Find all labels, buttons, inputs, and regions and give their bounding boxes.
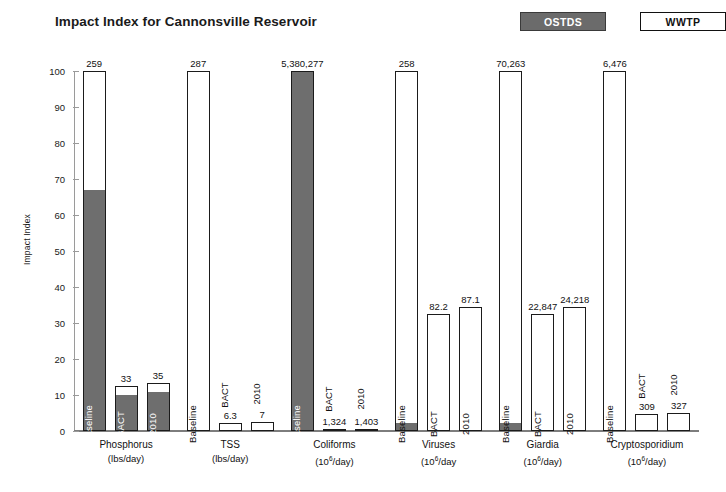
y-tick bbox=[73, 215, 79, 216]
bar-value-label: 6.3 bbox=[224, 410, 237, 421]
category-unit: (lbs/day) bbox=[212, 452, 248, 466]
bar-coliforms-2010: 1,403 bbox=[355, 429, 378, 431]
bar-scenario-label: 2010 bbox=[668, 374, 679, 395]
bar-tss-2010: 7 bbox=[251, 422, 274, 431]
category-unit: (106/day) bbox=[313, 452, 355, 469]
y-tick-label: 40 bbox=[54, 282, 65, 293]
bar-scenario-label: 2010 bbox=[251, 384, 262, 405]
legend-swatch-wwtp: WWTP bbox=[640, 12, 726, 31]
category-unit: (lbs/day) bbox=[99, 452, 152, 466]
legend-item-wwtp: WWTP bbox=[640, 12, 726, 31]
y-tick-label: 20 bbox=[54, 354, 65, 365]
bar-segment-ostds bbox=[500, 423, 521, 430]
bar-segment-wwtp bbox=[396, 72, 417, 423]
y-axis-label: Impact Index bbox=[22, 214, 32, 265]
y-tick-label: 90 bbox=[54, 102, 65, 113]
bar-segment-ostds bbox=[292, 72, 313, 430]
bar-value-label: 87.1 bbox=[461, 294, 480, 305]
bar-segment-wwtp bbox=[84, 72, 105, 190]
bar-value-label: 70,263 bbox=[496, 58, 525, 69]
bar-segment-ostds bbox=[116, 395, 137, 430]
bar-segment-wwtp bbox=[564, 308, 585, 430]
y-tick bbox=[73, 179, 79, 180]
legend-swatch-ostds: OSTDS bbox=[520, 12, 606, 31]
bar-value-label: 5,380,277 bbox=[281, 58, 323, 69]
bar-segment-ostds bbox=[148, 392, 169, 430]
y-tick bbox=[73, 395, 79, 396]
x-axis-category-label: Phosphorus(lbs/day) bbox=[99, 438, 152, 466]
legend-item-ostds: OSTDS bbox=[520, 12, 606, 31]
bar-segment-wwtp bbox=[668, 414, 689, 430]
bar-value-label: 33 bbox=[121, 373, 132, 384]
x-axis-category-label: Viruses(106/day bbox=[421, 438, 456, 469]
bar-cryptosporidium-baseline: 6,476Baseline bbox=[603, 71, 626, 431]
chart-legend: OSTDS WWTP bbox=[520, 12, 726, 31]
category-name: Viruses bbox=[421, 438, 456, 452]
bar-value-label: 259 bbox=[86, 58, 102, 69]
bar-viruses-2010: 87.12010 bbox=[459, 307, 482, 431]
bar-segment-wwtp bbox=[532, 315, 553, 430]
x-axis-category-label: TSS(lbs/day) bbox=[212, 438, 248, 466]
bar-scenario-label: BACT bbox=[636, 373, 647, 398]
category-unit: (106/day) bbox=[524, 452, 562, 469]
y-tick bbox=[73, 143, 79, 144]
category-name: Giardia bbox=[524, 438, 562, 452]
y-tick-label: 80 bbox=[54, 138, 65, 149]
plot-area: 0102030405060708090100259Baseline33BACT3… bbox=[74, 71, 699, 431]
bar-segment-wwtp bbox=[148, 384, 169, 392]
bar-segment-wwtp bbox=[252, 423, 273, 430]
y-tick-label: 60 bbox=[54, 210, 65, 221]
x-axis-category-label: Giardia(106/day) bbox=[524, 438, 562, 469]
y-tick-label: 50 bbox=[54, 246, 65, 257]
y-tick bbox=[73, 323, 79, 324]
bar-coliforms-baseline: 5,380,277Baseline bbox=[291, 71, 314, 431]
bar-scenario-label: 2010 bbox=[355, 389, 366, 410]
x-axis-category-label: Cryptosporidium(106/day) bbox=[611, 438, 684, 469]
bar-phosphorus-bact: 33BACT bbox=[115, 386, 138, 431]
y-tick-label: 100 bbox=[49, 66, 65, 77]
category-unit: (106/day bbox=[421, 452, 456, 469]
bar-giardia-2010: 24,2182010 bbox=[563, 307, 586, 431]
bar-phosphorus-2010: 352010 bbox=[147, 383, 170, 431]
bar-segment-wwtp bbox=[460, 308, 481, 430]
bar-giardia-baseline: 70,263Baseline bbox=[499, 71, 522, 431]
bar-giardia-bact: 22,847BACT bbox=[531, 314, 554, 431]
bar-value-label: 7 bbox=[260, 409, 265, 420]
bar-cryptosporidium-bact: 309 bbox=[635, 414, 658, 431]
bar-scenario-label: BACT bbox=[323, 387, 334, 412]
page-title: Impact Index for Cannonsville Reservoir bbox=[55, 14, 317, 29]
category-name: Phosphorus bbox=[99, 438, 152, 452]
bar-segment-wwtp bbox=[604, 72, 625, 430]
bar-value-label: 287 bbox=[190, 58, 206, 69]
y-tick bbox=[73, 431, 79, 432]
y-tick bbox=[73, 107, 79, 108]
bar-value-label: 258 bbox=[399, 58, 415, 69]
bar-viruses-baseline: 258Baseline bbox=[395, 71, 418, 431]
category-unit: (106/day) bbox=[611, 452, 684, 469]
bar-segment-wwtp bbox=[188, 72, 209, 430]
bar-tss-bact: 6.3 bbox=[219, 423, 242, 431]
bar-tss-baseline: 287Baseline bbox=[187, 71, 210, 431]
bar-phosphorus-baseline: 259Baseline bbox=[83, 71, 106, 431]
bar-segment-ostds bbox=[396, 423, 417, 430]
bar-segment-ostds bbox=[84, 190, 105, 430]
bar-segment-wwtp bbox=[116, 387, 137, 395]
bar-viruses-bact: 82.2BACT bbox=[427, 314, 450, 431]
bar-segment-wwtp bbox=[500, 72, 521, 423]
y-tick-label: 10 bbox=[54, 390, 65, 401]
bar-value-label: 1,403 bbox=[355, 416, 379, 427]
y-tick-label: 30 bbox=[54, 318, 65, 329]
bar-cryptosporidium-2010: 327 bbox=[667, 413, 690, 431]
bar-scenario-label: BACT bbox=[219, 382, 230, 407]
y-tick bbox=[73, 251, 79, 252]
category-name: Coliforms bbox=[313, 438, 355, 452]
bar-value-label: 327 bbox=[671, 400, 687, 411]
bar-value-label: 22,847 bbox=[528, 301, 557, 312]
category-name: TSS bbox=[212, 438, 248, 452]
bar-value-label: 35 bbox=[153, 370, 164, 381]
bar-value-label: 82.2 bbox=[429, 301, 448, 312]
y-tick-label: 0 bbox=[60, 426, 65, 437]
bar-segment-wwtp bbox=[428, 315, 449, 430]
bar-segment-wwtp bbox=[636, 415, 657, 430]
